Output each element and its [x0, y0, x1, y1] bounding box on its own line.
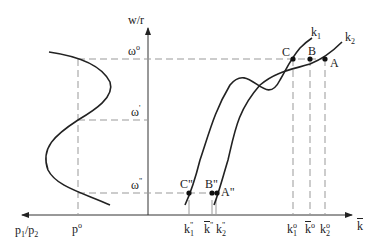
k1pp-label: k1": [184, 222, 193, 238]
k2-sub: 2: [351, 37, 355, 46]
point-A2-label: A": [221, 186, 235, 198]
omega2-label: ω": [131, 178, 142, 191]
omega2-base: ω: [131, 178, 139, 192]
p2-sub: 2: [34, 230, 38, 239]
k2pp-label: k2": [216, 222, 225, 238]
horizontal-axis-right-label: k: [357, 220, 363, 232]
k1o-label: k1o: [287, 222, 297, 238]
omega0-label: ωo: [128, 44, 140, 57]
point-A2: [214, 190, 219, 195]
omega1-label: ω': [131, 105, 140, 118]
omega0-sup: o: [136, 43, 140, 52]
k2-curve-label: k2: [345, 31, 355, 46]
point-C: [290, 56, 295, 61]
omega2-sup: ": [139, 177, 142, 186]
kbaro-label: ko: [305, 222, 315, 235]
omega1-sup: ': [139, 104, 140, 113]
k1o-sup: o: [293, 221, 297, 230]
diagram-canvas: [0, 0, 380, 246]
point-C2-label: C": [180, 178, 193, 190]
point-B2-label: B": [205, 178, 218, 190]
kbarpp-label: k": [204, 222, 213, 235]
p0-sup: o: [78, 221, 82, 230]
k2pp-sup: ": [222, 221, 225, 230]
omega1-base: ω: [131, 105, 139, 119]
k1pp-sub: 1: [190, 229, 194, 238]
k-bar-label: k: [357, 219, 363, 233]
point-A: [322, 56, 327, 61]
k1-sub: 1: [317, 32, 321, 41]
k2-curve: [214, 42, 342, 205]
point-C2: [186, 190, 191, 195]
vertical-axis-label: w/r: [128, 14, 144, 26]
k1o-sub: 1: [293, 229, 297, 238]
k2o-label: k2o: [320, 222, 330, 238]
p0-label: po: [72, 222, 82, 235]
k2o-sub: 2: [326, 229, 330, 238]
point-C-label: C: [282, 46, 290, 58]
kbaro-sup: o: [311, 221, 315, 230]
k2o-sup: o: [326, 221, 330, 230]
horizontal-axis-left-label: p1/p2: [15, 224, 38, 239]
k1-curve-label: k1: [311, 26, 321, 41]
k1pp-sup: ": [190, 221, 193, 230]
kbarpp-sup: ": [210, 221, 213, 230]
k2pp-sub: 2: [222, 229, 226, 238]
point-B2: [209, 190, 214, 195]
omega0-base: ω: [128, 44, 136, 58]
point-B-label: B: [308, 45, 316, 57]
point-A-label: A: [330, 57, 339, 69]
